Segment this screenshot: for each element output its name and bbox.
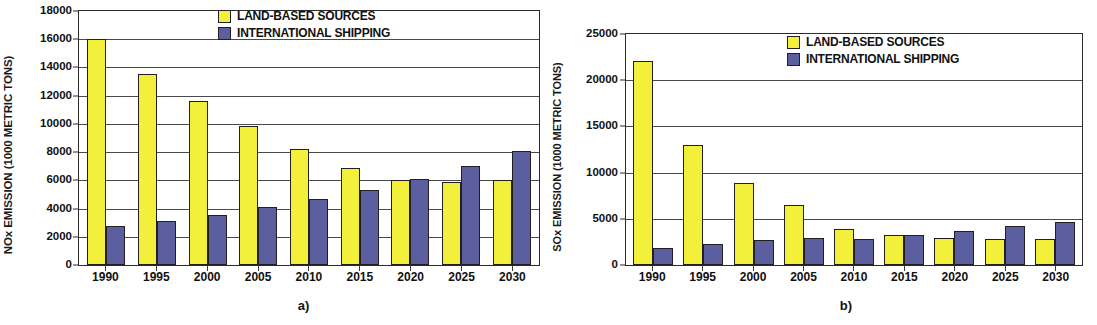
y-axis-tick-label: 18000 [40,5,72,17]
bar-group [734,34,774,265]
bar-group [341,11,379,265]
legend-b: LAND-BASED SOURCES INTERNATIONAL SHIPPIN… [787,35,959,66]
bar [512,151,531,265]
chart-panel-b: SOx EMISSION (1000 METRIC TONS) 05000100… [547,0,1097,325]
bar-group [683,34,723,265]
x-axis-labels-a: 199019952000200520102015202020252030 [78,270,540,284]
y-axis-tick-label: 20000 [586,74,618,86]
x-axis-tick-label: 2015 [338,270,382,284]
bar-group [442,11,480,265]
y-axis-tick-label: 10000 [586,167,618,179]
bar [258,207,277,265]
bar [106,226,125,265]
legend-swatch-shipping-icon [218,27,231,40]
x-axis-tick-label: 2030 [490,270,534,284]
bar [804,238,824,265]
bar [754,240,774,265]
bar [633,61,653,265]
bar-series-b [626,34,1082,265]
bar-group [239,11,277,265]
legend-label-international-shipping: INTERNATIONAL SHIPPING [237,26,390,40]
plot-area-a: 0200040006000800010000120001400016000180… [78,10,540,266]
y-axis-tick-label: 10000 [40,118,72,130]
figure: NOx EMISSION (1000 METRIC TONS) 02000400… [0,0,1097,325]
y-axis-title-b: SOx EMISSION (1000 METRIC TONS) [551,22,569,292]
y-axis-tick-label: 4000 [46,203,72,215]
legend-swatch-land-icon [787,36,800,49]
bar [189,101,208,265]
x-axis-tick-label: 2010 [287,270,331,284]
bar [290,149,309,265]
bar [834,229,854,265]
bar-group [391,11,429,265]
x-axis-tick-label: 2005 [782,270,826,284]
bar-group [1035,34,1075,265]
x-axis-tick-label: 2025 [983,270,1027,284]
y-axis-tick-label: 14000 [40,62,72,74]
y-axis-title-a: NOx EMISSION (1000 METRIC TONS) [2,20,20,290]
bar-group [934,34,974,265]
x-axis-tick-label: 1990 [630,270,674,284]
legend-label-international-shipping: INTERNATIONAL SHIPPING [806,52,959,66]
bar [442,182,461,265]
bar [934,238,954,265]
bar [1055,222,1075,265]
x-axis-tick-label: 2000 [185,270,229,284]
y-axis-tick-label: 0 [66,259,72,271]
legend-swatch-land-icon [218,10,231,23]
y-axis-tick-label: 12000 [40,90,72,102]
legend-item-international-shipping: INTERNATIONAL SHIPPING [787,52,959,66]
legend-item-land-based-sources: LAND-BASED SOURCES [787,35,959,49]
bar [904,235,924,265]
bar-group [290,11,328,265]
y-axis-tick-label: 25000 [586,28,618,40]
bar [784,205,804,265]
x-axis-tick-label: 1990 [83,270,127,284]
bar [683,145,703,265]
bar [157,221,176,265]
y-axis-tick-label: 16000 [40,33,72,45]
legend-item-land-based-sources: LAND-BASED SOURCES [218,9,390,23]
y-axis-tick-label: 6000 [46,175,72,187]
bar [208,215,227,265]
bar-group [834,34,874,265]
bar-group [87,11,125,265]
bar [884,235,904,265]
legend-label-land-based-sources: LAND-BASED SOURCES [237,9,375,23]
plot-area-b: 0500010000150002000025000 [625,33,1083,266]
x-axis-labels-b: 199019952000200520102015202020252030 [625,270,1083,284]
chart-panel-a: NOx EMISSION (1000 METRIC TONS) 02000400… [0,0,547,325]
bar [239,126,258,265]
subcaption-b: b) [571,298,1097,313]
bar-series-a [79,11,539,265]
bar-group [138,11,176,265]
bar [138,74,157,265]
bar [985,239,1005,265]
bar [461,166,480,265]
x-axis-tick-label: 2020 [389,270,433,284]
legend-item-international-shipping: INTERNATIONAL SHIPPING [218,26,390,40]
bar [653,248,673,265]
bar-group [189,11,227,265]
bar [309,199,328,265]
x-axis-tick-label: 2005 [236,270,280,284]
bar [493,180,512,265]
bar [1005,226,1025,265]
bar [734,183,754,265]
bar [360,190,379,265]
legend-swatch-shipping-icon [787,53,800,66]
bar-group [985,34,1025,265]
subcaption-a: a) [30,298,577,313]
x-axis-tick-label: 2020 [933,270,977,284]
bar [341,168,360,265]
bar [854,239,874,265]
legend-a: LAND-BASED SOURCES INTERNATIONAL SHIPPIN… [218,9,390,40]
y-axis-tick-label: 2000 [46,231,72,243]
bar [1035,239,1055,265]
x-axis-tick-label: 2030 [1034,270,1078,284]
bar [410,179,429,265]
bar [954,231,974,265]
bar [87,39,106,265]
y-axis-tick-label: 8000 [46,146,72,158]
bar-group [493,11,531,265]
